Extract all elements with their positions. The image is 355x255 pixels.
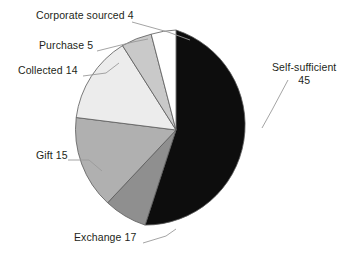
pie-label-self-sufficient-value: 45 xyxy=(272,74,336,87)
pie-label-purchase: Purchase 5 xyxy=(39,39,93,52)
leader-line-exchange xyxy=(143,229,176,243)
pie-chart: Corporate sourced 4 Purchase 5 Collected… xyxy=(0,0,355,255)
pie-label-self-sufficient: Self-sufficient 45 xyxy=(272,61,336,87)
pie-label-collected: Collected 14 xyxy=(18,64,78,77)
pie-label-self-sufficient-name: Self-sufficient xyxy=(272,61,336,74)
pie-label-gift: Gift 15 xyxy=(36,149,68,162)
pie-label-exchange: Exchange 17 xyxy=(74,231,136,244)
pie-label-corporate-sourced: Corporate sourced 4 xyxy=(36,9,134,22)
